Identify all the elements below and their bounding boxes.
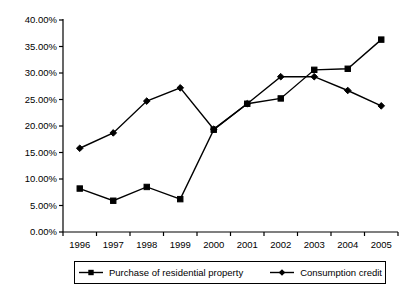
x-axis-tick-label: 2005: [371, 240, 392, 250]
x-axis-tick-labels: 1996199719981999200020012002200320042005: [0, 0, 413, 295]
x-axis-tick-label: 2003: [304, 240, 325, 250]
chart-legend: Purchase of residential propertyConsumpt…: [74, 261, 386, 284]
x-axis-tick-label: 2002: [270, 240, 291, 250]
x-axis-tick-label: 1997: [103, 240, 124, 250]
legend-entry: Consumption credit: [269, 267, 382, 278]
legend-label: Purchase of residential property: [109, 268, 243, 278]
diamond-marker: [269, 267, 295, 278]
square-marker: [78, 267, 104, 278]
legend-label: Consumption credit: [300, 268, 382, 278]
x-axis-tick-label: 2000: [203, 240, 224, 250]
x-axis-tick-label: 1999: [170, 240, 191, 250]
x-axis-tick-label: 2001: [237, 240, 258, 250]
legend-entry: Purchase of residential property: [78, 267, 243, 278]
x-axis-tick-label: 1996: [69, 240, 90, 250]
x-axis-tick-label: 2004: [337, 240, 358, 250]
x-axis-tick-label: 1998: [136, 240, 157, 250]
line-chart: 0.00%5.00%10.00%15.00%20.00%25.00%30.00%…: [0, 0, 413, 295]
